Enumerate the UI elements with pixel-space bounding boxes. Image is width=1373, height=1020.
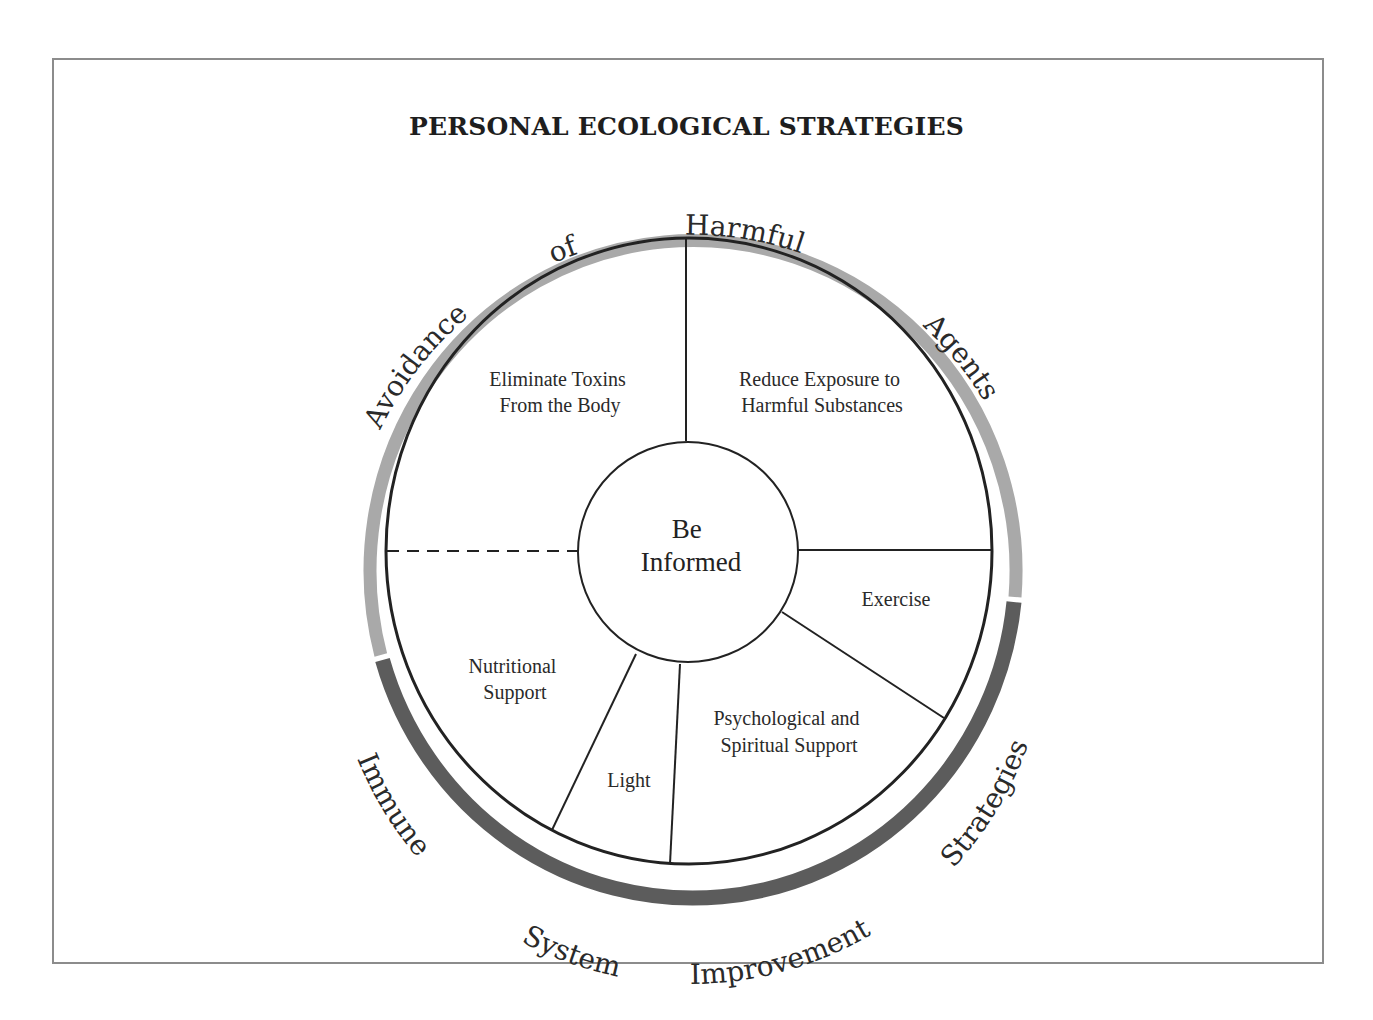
divider-bottom xyxy=(670,664,680,864)
segment-light: Light xyxy=(607,769,651,792)
ecological-strategies-wheel: Be Informed Eliminate Toxins From the Bo… xyxy=(0,0,1373,1020)
divider-lower-left xyxy=(552,654,636,830)
divider-lower-right xyxy=(782,612,944,718)
arc-label-improvement: Improvement xyxy=(690,911,876,991)
arc-label-immune: Immune xyxy=(351,748,438,862)
segment-reduce-exposure: Reduce Exposure to Harmful Substances xyxy=(739,368,905,416)
segment-psychological-spiritual: Psychological and Spiritual Support xyxy=(713,707,864,757)
arc-label-strategies: Strategies xyxy=(934,735,1035,873)
segment-exercise: Exercise xyxy=(862,588,931,610)
segment-nutritional-support: Nutritional Support xyxy=(469,655,562,704)
arc-label-harmful: Harmful xyxy=(685,209,810,260)
arc-label-system: System xyxy=(518,918,625,984)
segment-eliminate-toxins: Eliminate Toxins From the Body xyxy=(489,368,631,417)
